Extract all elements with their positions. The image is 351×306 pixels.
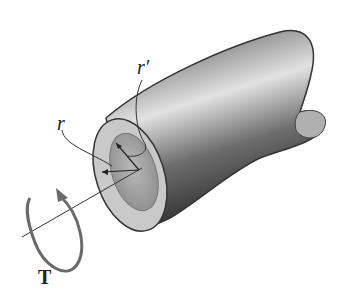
hollow-shaft-torsion-diagram: r r′ T: [0, 0, 351, 306]
inner-radius-label: r: [57, 112, 65, 135]
torque-label: T: [38, 266, 51, 289]
far-end-opening: [295, 110, 325, 138]
outer-radius-label: r′: [137, 56, 149, 79]
shaft-illustration: [0, 0, 351, 306]
torque-arrowhead-icon: [56, 188, 68, 202]
